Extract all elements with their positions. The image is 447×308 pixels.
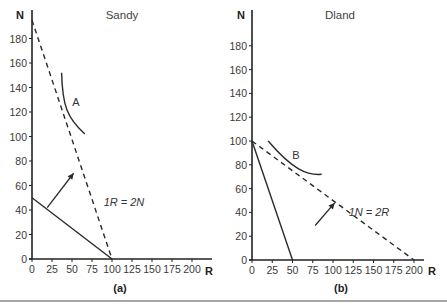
y-tick-label: 60	[15, 180, 27, 192]
arrow-head-icon	[68, 173, 74, 180]
x-tick-label: 150	[143, 263, 161, 275]
y-tick-label: 180	[229, 40, 247, 52]
x-tick-labels: 0255075100125150175200	[29, 263, 201, 275]
x-tick-labels: 0255075100125150175200	[249, 264, 423, 276]
y-tick-labels: 020406080100120140160180	[229, 40, 247, 266]
trade-line	[32, 20, 112, 259]
shift-arrow	[47, 173, 73, 207]
x-tick-label: 75	[86, 263, 98, 275]
panel-title: Dland	[325, 9, 355, 21]
x-axis-label: R	[205, 265, 213, 277]
panel-sandy: Sandy N R (a) A 1R = 2N 0255075100125150…	[9, 9, 213, 294]
y-axis-label: N	[237, 9, 245, 21]
x-tick-label: 25	[46, 263, 58, 275]
y-tick-label: 0	[21, 253, 27, 265]
y-tick-label: 80	[15, 155, 27, 167]
panel-title: Sandy	[106, 9, 139, 21]
x-tick-label: 200	[405, 264, 423, 276]
x-tick-label: 0	[249, 264, 255, 276]
y-tick-label: 40	[235, 206, 247, 218]
y-tick-label: 140	[229, 87, 247, 99]
chart-figure: Sandy N R (a) A 1R = 2N 0255075100125150…	[0, 0, 447, 308]
y-tick-label: 180	[9, 33, 27, 45]
curve-label-a: A	[72, 96, 80, 108]
x-tick-label: 125	[123, 263, 141, 275]
y-tick-labels: 020406080100120140160180	[9, 33, 27, 266]
ppf-line	[252, 141, 293, 260]
equation-label: 1R = 2N	[104, 196, 145, 208]
x-tick-label: 25	[266, 264, 278, 276]
y-tick-label: 80	[235, 159, 247, 171]
y-tick-label: 120	[229, 111, 247, 123]
plot-area	[249, 10, 424, 263]
x-tick-label: 125	[344, 264, 362, 276]
y-tick-label: 160	[229, 64, 247, 76]
x-tick-label: 0	[29, 263, 35, 275]
y-tick-label: 60	[235, 183, 247, 195]
x-tick-label: 200	[183, 263, 201, 275]
ppf-line	[32, 198, 112, 259]
y-tick-label: 20	[235, 230, 247, 242]
y-axis-label: N	[16, 9, 24, 21]
trade-line	[252, 141, 414, 260]
x-axis-label: R	[428, 265, 436, 277]
curve-label-b: B	[292, 149, 299, 161]
x-tick-label: 50	[287, 264, 299, 276]
x-tick-label: 50	[66, 263, 78, 275]
x-tick-label: 75	[307, 264, 319, 276]
y-tick-label: 0	[241, 254, 247, 266]
y-tick-label: 40	[15, 204, 27, 216]
x-tick-label: 150	[365, 264, 383, 276]
y-tick-label: 160	[9, 57, 27, 69]
x-tick-label: 175	[385, 264, 403, 276]
panel-caption: (b)	[334, 282, 348, 294]
x-tick-label: 175	[163, 263, 181, 275]
y-tick-label: 100	[229, 135, 247, 147]
panel-caption: (a)	[113, 282, 127, 294]
plot-area	[29, 10, 212, 262]
y-tick-label: 100	[9, 131, 27, 143]
panel-dland: Dland N R (b) B 1N = 2R 0255075100125150…	[229, 9, 436, 294]
y-tick-label: 20	[15, 229, 27, 241]
y-tick-label: 140	[9, 82, 27, 94]
y-tick-label: 120	[9, 106, 27, 118]
x-tick-label: 100	[324, 264, 342, 276]
x-tick-label: 100	[103, 263, 121, 275]
